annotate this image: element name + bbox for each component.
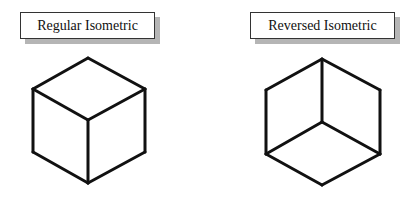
cube-edge [33, 152, 88, 183]
cube-edge [33, 58, 88, 89]
reversed-isometric-cube [266, 59, 380, 185]
cube-edge [322, 122, 380, 154]
cube-edge [322, 59, 380, 90]
cube-edge [322, 154, 380, 185]
cube-edge [266, 154, 322, 185]
cube-edge [33, 89, 88, 120]
cube-edge [88, 152, 145, 183]
regular-isometric-cube [33, 58, 145, 183]
cube-edge [88, 58, 145, 89]
cube-edge [266, 59, 322, 90]
cube-edge [266, 122, 322, 154]
isometric-cubes-drawing [0, 0, 417, 200]
cube-edge [88, 89, 145, 120]
